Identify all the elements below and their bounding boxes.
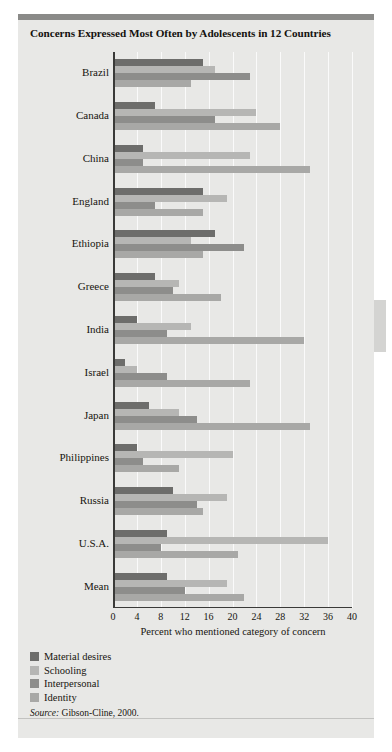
category-label: Japan	[17, 409, 109, 421]
category-label: Israel	[17, 366, 109, 378]
bar	[113, 202, 155, 209]
bar-group	[113, 437, 352, 480]
bar	[113, 330, 167, 337]
legend-label: Identity	[44, 691, 77, 705]
bar	[113, 152, 250, 159]
category-label: Canada	[17, 109, 109, 121]
bar	[113, 102, 155, 109]
bar	[113, 280, 179, 287]
bar-group	[113, 95, 352, 138]
bar	[113, 337, 304, 344]
category-label: England	[17, 195, 109, 207]
bar	[113, 116, 215, 123]
category-label: Brazil	[17, 66, 109, 78]
source-text: Gibson-Cline, 2000.	[62, 708, 139, 718]
y-axis-line	[113, 52, 115, 608]
bar	[113, 580, 227, 587]
bar	[113, 594, 244, 601]
bar	[113, 80, 191, 87]
legend-swatch	[30, 666, 39, 675]
bar-group	[113, 266, 352, 309]
bar	[113, 451, 233, 458]
bar	[113, 501, 197, 508]
bar	[113, 59, 203, 66]
legend-item: Interpersonal	[30, 675, 230, 689]
category-label: Ethiopia	[17, 237, 109, 249]
bar	[113, 366, 137, 373]
legend-swatch	[30, 679, 39, 688]
category-label: Greece	[17, 280, 109, 292]
category-label: China	[17, 152, 109, 164]
bar	[113, 195, 227, 202]
bar-group	[113, 565, 352, 608]
bottom-rule	[18, 718, 374, 719]
bar-group	[113, 138, 352, 181]
bar	[113, 109, 256, 116]
bar	[113, 537, 328, 544]
bar	[113, 416, 197, 423]
bar	[113, 294, 221, 301]
x-tick-label: 0	[111, 611, 116, 622]
page-edge-tab	[374, 300, 386, 352]
category-label: U.S.A.	[17, 537, 109, 549]
bar	[113, 487, 173, 494]
bar	[113, 323, 191, 330]
gridline	[352, 52, 353, 608]
x-axis-line	[113, 607, 352, 609]
bar	[113, 465, 179, 472]
x-tick-label: 40	[347, 611, 357, 622]
category-label: Russia	[17, 494, 109, 506]
source-label: Source:	[30, 708, 59, 718]
category-label: Philippines	[17, 451, 109, 463]
x-axis-title: Percent who mentioned category of concer…	[88, 626, 378, 637]
bar	[113, 73, 250, 80]
bar	[113, 230, 215, 237]
bar	[113, 380, 250, 387]
bar	[113, 273, 155, 280]
chart-legend: Material desiresSchoolingInterpersonalId…	[30, 648, 230, 702]
bar-group	[113, 223, 352, 266]
bar-group	[113, 351, 352, 394]
x-tick-label: 8	[158, 611, 163, 622]
bar-group	[113, 309, 352, 352]
bar	[113, 123, 280, 130]
x-tick-label: 4	[134, 611, 139, 622]
bar	[113, 287, 173, 294]
x-tick-label: 32	[299, 611, 309, 622]
source-note: Source: Gibson-Cline, 2000.	[30, 708, 139, 718]
bar	[113, 244, 244, 251]
legend-swatch	[30, 693, 39, 702]
bar	[113, 402, 149, 409]
bar	[113, 316, 137, 323]
bar-group	[113, 180, 352, 223]
bar	[113, 188, 203, 195]
figure-page: Concerns Expressed Most Often by Adolesc…	[0, 0, 392, 752]
category-label: Mean	[17, 580, 109, 592]
legend-item: Schooling	[30, 662, 230, 676]
bar	[113, 508, 203, 515]
bar	[113, 458, 143, 465]
page-title: Concerns Expressed Most Often by Adolesc…	[30, 26, 366, 40]
x-tick-label: 12	[180, 611, 190, 622]
bar	[113, 494, 227, 501]
bar	[113, 544, 161, 551]
x-tick-labels: 0481216202428323640	[113, 611, 352, 625]
bar	[113, 373, 167, 380]
legend-swatch	[30, 652, 39, 661]
bar	[113, 145, 143, 152]
bar	[113, 587, 185, 594]
bar	[113, 237, 191, 244]
bar	[113, 423, 310, 430]
x-tick-label: 36	[323, 611, 333, 622]
bar-group	[113, 52, 352, 95]
x-tick-label: 20	[228, 611, 238, 622]
bar	[113, 209, 203, 216]
category-label: India	[17, 323, 109, 335]
bar	[113, 159, 143, 166]
bar	[113, 359, 125, 366]
x-tick-label: 16	[204, 611, 214, 622]
legend-item: Material desires	[30, 648, 230, 662]
bar-group	[113, 480, 352, 523]
x-tick-label: 24	[251, 611, 261, 622]
category-axis-labels: BrazilCanadaChinaEnglandEthiopiaGreeceIn…	[13, 52, 109, 608]
